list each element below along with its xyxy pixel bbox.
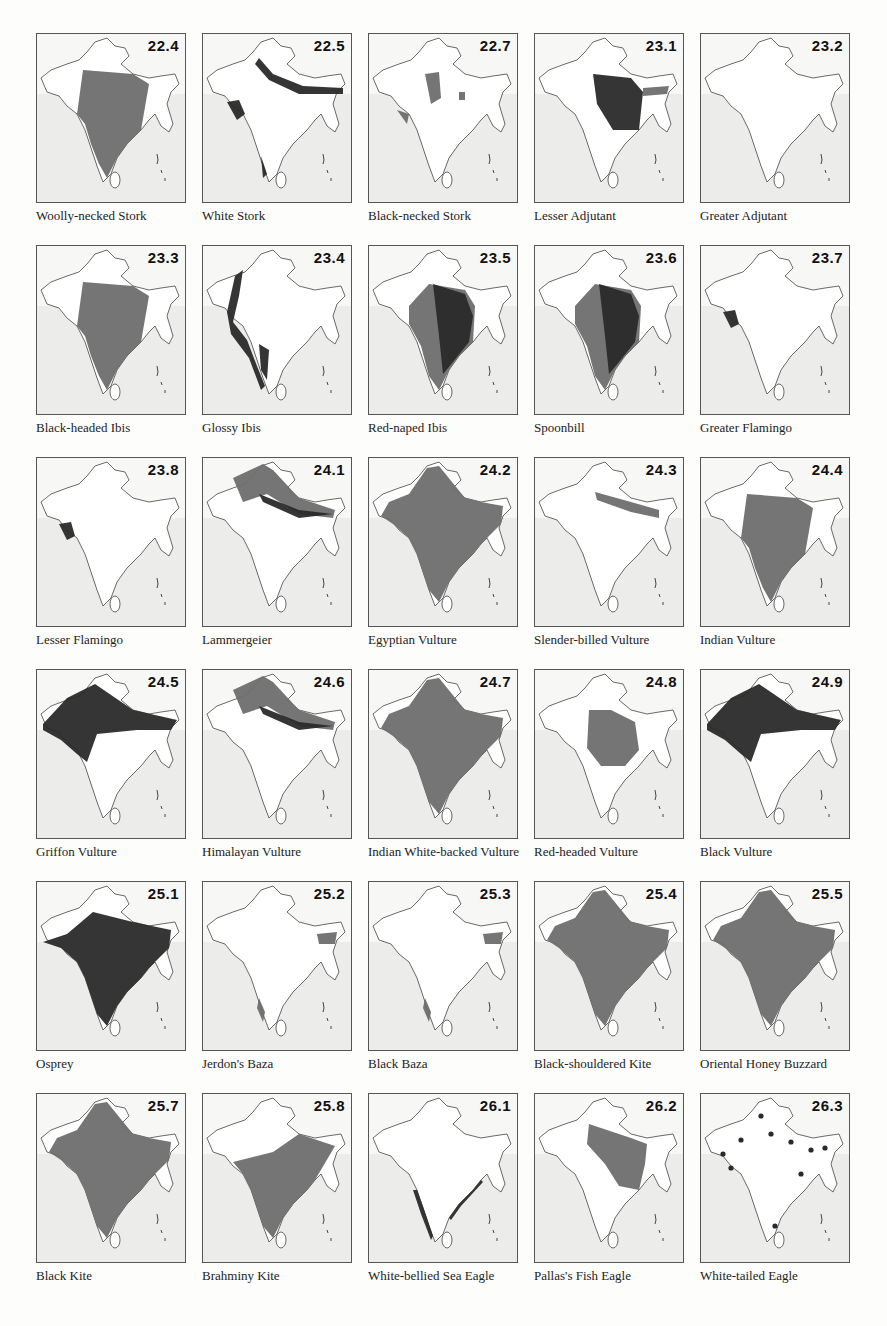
species-number: 26.2 — [646, 1097, 677, 1114]
species-name: Himalayan Vulture — [202, 844, 367, 859]
species-name: Oriental Honey Buzzard — [700, 1056, 865, 1071]
india-outline-map — [369, 1094, 517, 1262]
india-outline-map — [535, 458, 683, 626]
species-name: Pallas's Fish Eagle — [534, 1268, 699, 1283]
species-name: Glossy Ibis — [202, 420, 367, 435]
species-name: Lesser Adjutant — [534, 208, 699, 223]
range-map: 24.9 — [700, 669, 850, 839]
india-outline-map — [535, 882, 683, 1050]
species-name: Black-headed Ibis — [36, 420, 201, 435]
species-map-card: 24.2 Egyptian Vulture — [368, 457, 526, 669]
india-outline-map — [369, 882, 517, 1050]
species-number: 24.5 — [148, 673, 179, 690]
india-outline-map — [701, 246, 849, 414]
range-map: 24.5 — [36, 669, 186, 839]
range-map: 22.5 — [202, 33, 352, 203]
species-name: Jerdon's Baza — [202, 1056, 367, 1071]
species-name: Black Vulture — [700, 844, 865, 859]
species-number: 25.5 — [812, 885, 843, 902]
species-number: 22.7 — [480, 37, 511, 54]
species-map-card: 24.9 Black Vulture — [700, 669, 858, 881]
range-map: 24.1 — [202, 457, 352, 627]
species-number: 25.2 — [314, 885, 345, 902]
species-map-card: 23.7 Greater Flamingo — [700, 245, 858, 457]
species-map-card: 26.2 Pallas's Fish Eagle — [534, 1093, 692, 1305]
species-map-grid: 22.4 Woolly-necked Stork 22.5 White Stor… — [36, 33, 866, 1305]
species-number: 22.4 — [148, 37, 179, 54]
range-map: 24.8 — [534, 669, 684, 839]
india-outline-map — [701, 1094, 849, 1262]
species-name: Black Baza — [368, 1056, 533, 1071]
species-map-card: 24.8 Red-headed Vulture — [534, 669, 692, 881]
range-map: 23.2 — [700, 33, 850, 203]
india-outline-map — [37, 458, 185, 626]
species-name: Black Kite — [36, 1268, 201, 1283]
india-outline-map — [369, 458, 517, 626]
species-number: 23.8 — [148, 461, 179, 478]
india-outline-map — [701, 882, 849, 1050]
india-outline-map — [37, 670, 185, 838]
india-outline-map — [701, 670, 849, 838]
species-map-card: 22.5 White Stork — [202, 33, 360, 245]
species-name: Lesser Flamingo — [36, 632, 201, 647]
species-number: 23.4 — [314, 249, 345, 266]
range-map: 25.1 — [36, 881, 186, 1051]
range-map: 24.7 — [368, 669, 518, 839]
range-map: 23.4 — [202, 245, 352, 415]
species-number: 25.1 — [148, 885, 179, 902]
species-number: 23.6 — [646, 249, 677, 266]
india-outline-map — [369, 246, 517, 414]
species-name: Red-naped Ibis — [368, 420, 533, 435]
range-map: 23.1 — [534, 33, 684, 203]
india-outline-map — [203, 1094, 351, 1262]
species-name: White Stork — [202, 208, 367, 223]
range-map: 25.7 — [36, 1093, 186, 1263]
india-outline-map — [37, 246, 185, 414]
species-name: Brahminy Kite — [202, 1268, 367, 1283]
india-outline-map — [203, 882, 351, 1050]
species-name: White-tailed Eagle — [700, 1268, 865, 1283]
species-map-card: 25.8 Brahminy Kite — [202, 1093, 360, 1305]
species-map-card: 24.3 Slender-billed Vulture — [534, 457, 692, 669]
species-map-card: 23.1 Lesser Adjutant — [534, 33, 692, 245]
range-map: 23.3 — [36, 245, 186, 415]
range-map: 24.2 — [368, 457, 518, 627]
species-map-card: 25.3 Black Baza — [368, 881, 526, 1093]
india-outline-map — [535, 670, 683, 838]
species-number: 26.1 — [480, 1097, 511, 1114]
range-map: 25.2 — [202, 881, 352, 1051]
species-name: Woolly-necked Stork — [36, 208, 201, 223]
species-map-card: 23.4 Glossy Ibis — [202, 245, 360, 457]
species-name: Spoonbill — [534, 420, 699, 435]
species-name: White-bellied Sea Eagle — [368, 1268, 533, 1283]
india-outline-map — [701, 458, 849, 626]
species-map-card: 26.1 White-bellied Sea Eagle — [368, 1093, 526, 1305]
species-name: Greater Flamingo — [700, 420, 865, 435]
species-name: Black-shouldered Kite — [534, 1056, 699, 1071]
species-name: Slender-billed Vulture — [534, 632, 699, 647]
species-number: 24.6 — [314, 673, 345, 690]
species-number: 24.8 — [646, 673, 677, 690]
species-map-card: 25.2 Jerdon's Baza — [202, 881, 360, 1093]
range-map: 25.3 — [368, 881, 518, 1051]
species-number: 22.5 — [314, 37, 345, 54]
species-name: Egyptian Vulture — [368, 632, 533, 647]
species-map-card: 24.1 Lammergeier — [202, 457, 360, 669]
india-outline-map — [203, 34, 351, 202]
species-name: Red-headed Vulture — [534, 844, 699, 859]
india-outline-map — [535, 34, 683, 202]
india-outline-map — [203, 458, 351, 626]
india-outline-map — [203, 246, 351, 414]
species-map-card: 23.5 Red-naped Ibis — [368, 245, 526, 457]
species-number: 24.1 — [314, 461, 345, 478]
india-outline-map — [37, 34, 185, 202]
species-name: Indian White-backed Vulture — [368, 844, 533, 859]
species-number: 23.2 — [812, 37, 843, 54]
species-number: 25.8 — [314, 1097, 345, 1114]
india-outline-map — [535, 246, 683, 414]
species-name: Indian Vulture — [700, 632, 865, 647]
species-number: 25.4 — [646, 885, 677, 902]
range-map: 23.6 — [534, 245, 684, 415]
species-number: 24.7 — [480, 673, 511, 690]
species-number: 23.7 — [812, 249, 843, 266]
